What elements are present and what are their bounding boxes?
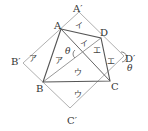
theta-dprime: θ	[127, 63, 133, 73]
region-u-inner: ウ	[74, 68, 82, 77]
geometry-diagram: A A′ D D′ C C′ B B′ イ イ ア ア エ エ ウ ウ θ θ	[0, 0, 148, 131]
region-u-outer: ウ	[74, 90, 82, 99]
theta-center: θ	[65, 46, 71, 56]
label-a: A	[53, 20, 62, 31]
region-a-outer: ア	[29, 54, 37, 63]
label-d: D	[100, 27, 108, 38]
angle-arc-center	[73, 50, 75, 58]
label-a-prime: A′	[72, 3, 83, 14]
region-a-inner: ア	[55, 56, 63, 65]
diagonal-bd	[43, 38, 101, 82]
label-b-prime: B′	[11, 56, 21, 67]
region-i-inner: イ	[80, 39, 88, 48]
region-i-top: イ	[75, 21, 83, 30]
region-e-inner: エ	[93, 46, 101, 55]
region-e-outer: エ	[107, 57, 115, 66]
label-c: C	[111, 81, 119, 92]
label-c-prime: C′	[67, 115, 78, 126]
label-b: B	[36, 83, 43, 94]
diagram-svg: A A′ D D′ C C′ B B′ イ イ ア ア エ エ ウ ウ θ θ	[0, 0, 148, 131]
